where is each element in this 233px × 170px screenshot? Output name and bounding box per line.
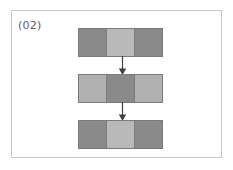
arrow-down-icon-2: [118, 102, 127, 122]
row-3-cell-right: [135, 121, 162, 148]
diagram-row-2: [78, 74, 163, 103]
row-1-cell-right: [135, 29, 162, 56]
arrow-down-icon: [118, 102, 127, 122]
row-3-cell-middle: [107, 121, 135, 148]
row-1-cell-middle: [107, 29, 135, 56]
row-2-cell-left: [79, 75, 107, 102]
figure-root: (02): [0, 0, 233, 170]
row-2-cell-middle: [107, 75, 135, 102]
row-3-cell-left: [79, 121, 107, 148]
diagram-row-3: [78, 120, 163, 149]
arrow-down-icon-1: [118, 56, 127, 76]
row-1-cell-left: [79, 29, 107, 56]
diagram-row-1: [78, 28, 163, 57]
row-2-cell-right: [135, 75, 162, 102]
arrow-down-icon: [118, 56, 127, 76]
panel-label: (02): [18, 19, 41, 32]
